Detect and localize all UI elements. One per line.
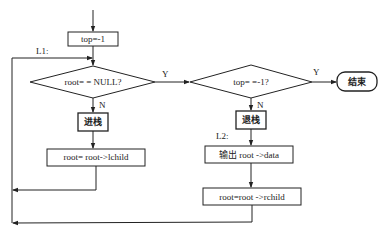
cond1-yes-label: Y — [162, 69, 169, 79]
output-text: 输出 root ->data — [219, 149, 279, 160]
lchild-text: root= root->lchild — [64, 152, 129, 162]
init-text: top=-1 — [81, 34, 105, 44]
end-text: 结束 — [348, 76, 367, 87]
flowchart: top=-1 L1: root= = NULL? Y N 进栈 root= ro… — [0, 0, 380, 233]
cond2-no-label: N — [257, 100, 264, 110]
cond2-yes-label: Y — [313, 67, 320, 77]
cond1-text: root= = NULL? — [64, 77, 121, 87]
l1-label: L1: — [36, 46, 49, 56]
cond2-text: top= =-1? — [233, 77, 268, 87]
cond1-no-label: N — [99, 100, 106, 110]
l2-label: L2: — [216, 131, 229, 141]
push-text: 进栈 — [84, 116, 102, 127]
rchild-text: root=root ->rchild — [219, 192, 285, 202]
pop-text: 退栈 — [242, 114, 260, 125]
